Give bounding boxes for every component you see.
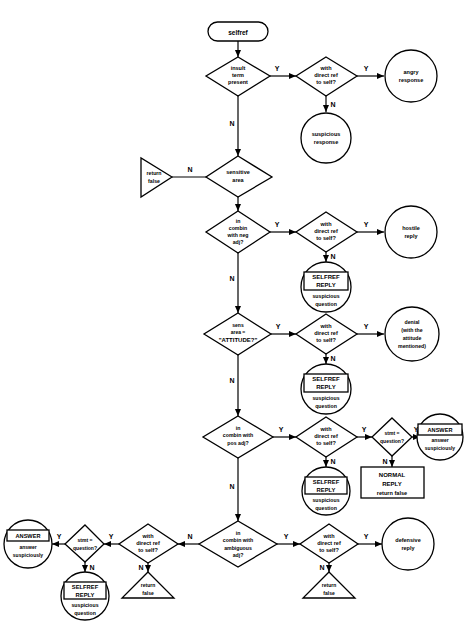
node-selfref-reply-4[interactable]: SELFREF REPLY suspicious question bbox=[61, 572, 109, 620]
edge-label-ref1-no: N bbox=[330, 101, 335, 108]
node-ref2-line2: direct ref bbox=[314, 228, 338, 234]
edge-label-ambig-no: N bbox=[187, 533, 192, 540]
node-start[interactable]: selfref bbox=[208, 22, 268, 41]
node-ref1-line3: to self? bbox=[316, 79, 336, 85]
node-suspicious-response[interactable]: suspicious response bbox=[301, 113, 351, 163]
node-insult-line1: insult bbox=[231, 65, 246, 71]
node-ref3-line2: direct ref bbox=[314, 330, 338, 336]
node-defensive-line1: defensive bbox=[395, 537, 420, 543]
node-ref4-line3: to self? bbox=[316, 440, 336, 446]
edge-label-ref1-yes: Y bbox=[364, 65, 369, 72]
node-selfref3-boxed1: SELFREF bbox=[313, 479, 340, 485]
node-start-label: selfref bbox=[228, 29, 248, 36]
edge-label-stmtq2-yes: Y bbox=[57, 533, 62, 540]
node-insult-line3: present bbox=[228, 79, 248, 85]
node-selfref2-boxed2: REPLY bbox=[316, 384, 335, 390]
node-stmtq2-line2: question? bbox=[73, 545, 97, 551]
node-answer1-line2: suspiciously bbox=[425, 445, 456, 451]
node-hostile-line1: hostile bbox=[402, 225, 420, 231]
node-denial-line2: (with the bbox=[401, 327, 422, 333]
node-retfalse1-line1: return bbox=[147, 170, 162, 176]
edge-label-ref2-no: N bbox=[330, 253, 335, 260]
node-posadj-line2: combin with bbox=[223, 432, 253, 438]
edge-label-attitude-no: N bbox=[229, 377, 234, 384]
node-answer2-boxed1: ANSWER bbox=[16, 533, 41, 539]
node-negadj-line1: in bbox=[236, 218, 241, 224]
node-ambig-line2: combin with bbox=[223, 537, 253, 543]
node-selfref1-boxed2: REPLY bbox=[316, 282, 335, 288]
edge-label-posadj-no: N bbox=[229, 483, 234, 490]
flowchart-canvas: Y N Y N N Y N Y N Y N Y N Y N Y N Y N Y … bbox=[0, 0, 466, 641]
node-ref2-line3: to self? bbox=[316, 235, 336, 241]
node-sensitive-line2: area bbox=[232, 177, 244, 183]
edge-label-ref2-yes: Y bbox=[364, 221, 369, 228]
edge-label-ambig-yes: Y bbox=[284, 533, 289, 540]
node-selfref3-line2: question bbox=[315, 505, 337, 511]
node-angry-line1: angry bbox=[404, 69, 420, 75]
node-answer-suspiciously-2[interactable]: ANSWER answer suspiciously bbox=[4, 520, 52, 568]
node-angry-response[interactable]: angry response bbox=[385, 50, 437, 102]
node-negadj-line3: with neg bbox=[226, 232, 248, 238]
node-selfref1-boxed1: SELFREF bbox=[312, 274, 340, 280]
node-selfref2-boxed1: SELFREF bbox=[312, 376, 340, 382]
node-ref4-line2: direct ref bbox=[314, 433, 338, 439]
node-selfref3-line1: suspicious bbox=[312, 497, 339, 503]
edge-label-insult-yes: Y bbox=[275, 65, 280, 72]
node-attitude-line2: area = bbox=[231, 329, 246, 335]
node-denial-line3: attitude bbox=[403, 335, 422, 341]
node-normal-reply[interactable]: NORMAL REPLY return false bbox=[361, 467, 424, 498]
node-retfalse2-line2: false bbox=[323, 590, 335, 596]
node-sensitive-line1: sensitive bbox=[226, 169, 250, 175]
node-ref1-line2: direct ref bbox=[314, 72, 338, 78]
node-selfref1-line2: question bbox=[315, 301, 337, 307]
node-ref1-line1: with bbox=[320, 65, 333, 71]
node-suspicious-line1: suspicious bbox=[312, 131, 341, 137]
node-defensive-reply[interactable]: defensive reply bbox=[382, 518, 434, 570]
node-selfref-reply-1[interactable]: SELFREF REPLY suspicious question bbox=[301, 262, 351, 312]
edge-label-ref4-no: N bbox=[330, 458, 335, 465]
node-selfref4-boxed1: SELFREF bbox=[72, 584, 99, 590]
node-negadj-line2: combin bbox=[229, 225, 247, 231]
node-stmtq2-line1: stmt = bbox=[78, 537, 93, 543]
node-answer1-boxed1: ANSWER bbox=[428, 427, 453, 433]
node-hostile-line2: reply bbox=[404, 233, 418, 239]
node-selfref4-line2: question bbox=[74, 610, 96, 616]
node-answer2-line2: suspiciously bbox=[13, 552, 44, 558]
node-ref6-line3: to self? bbox=[138, 547, 158, 553]
edge-label-ref6-no: N bbox=[138, 564, 143, 571]
node-denial-line1: denial bbox=[405, 319, 421, 325]
node-denial-line4: mentioned) bbox=[398, 343, 426, 349]
node-selfref4-line1: suspicious bbox=[71, 602, 98, 608]
node-retfalse1-line2: false bbox=[148, 178, 160, 184]
node-ref5-line3: to self? bbox=[319, 547, 339, 553]
node-insult-line2: term bbox=[232, 72, 244, 78]
node-ref6-line1: with bbox=[142, 533, 155, 539]
edge-label-ref3-no: N bbox=[330, 355, 335, 362]
edge-label-ref6-yes: Y bbox=[109, 533, 114, 540]
node-suspicious-line2: response bbox=[314, 139, 338, 145]
node-selfref1-line1: suspicious bbox=[312, 293, 339, 299]
node-negadj-line4: adj? bbox=[233, 239, 244, 245]
edge-label-sensitive-no: N bbox=[187, 166, 192, 173]
node-answer-suspiciously-1[interactable]: ANSWER answer suspiciously bbox=[417, 414, 463, 460]
edge-label-ref5-yes: Y bbox=[364, 533, 369, 540]
node-hostile-reply[interactable]: hostile reply bbox=[385, 206, 437, 258]
node-normal-line3: return false bbox=[377, 490, 407, 496]
edge-label-ref3-yes: Y bbox=[364, 323, 369, 330]
node-selfref-reply-2[interactable]: SELFREF REPLY suspicious question bbox=[301, 364, 351, 414]
node-ambig-line4: adj? bbox=[233, 552, 244, 558]
node-stmtq1-line2: question? bbox=[380, 438, 404, 444]
node-denial-reply[interactable]: denial (with the attitude mentioned) bbox=[385, 307, 439, 361]
node-retfalse2-line1: return bbox=[322, 582, 336, 588]
node-normal-line1: NORMAL bbox=[379, 472, 406, 478]
node-retfalse3-line2: false bbox=[142, 590, 154, 596]
edge-label-insult-no: N bbox=[229, 120, 234, 127]
node-selfref-reply-3[interactable]: SELFREF REPLY suspicious question bbox=[302, 467, 350, 515]
node-angry-line2: response bbox=[399, 77, 423, 83]
node-selfref4-boxed2: REPLY bbox=[76, 592, 95, 598]
edge-label-stmtq2-no: N bbox=[89, 564, 94, 571]
node-ambig-line3: ambiguous bbox=[224, 545, 252, 551]
node-normal-line2: REPLY bbox=[382, 481, 401, 487]
node-defensive-line2: reply bbox=[401, 545, 415, 551]
node-ambig-line1: in bbox=[236, 530, 241, 536]
